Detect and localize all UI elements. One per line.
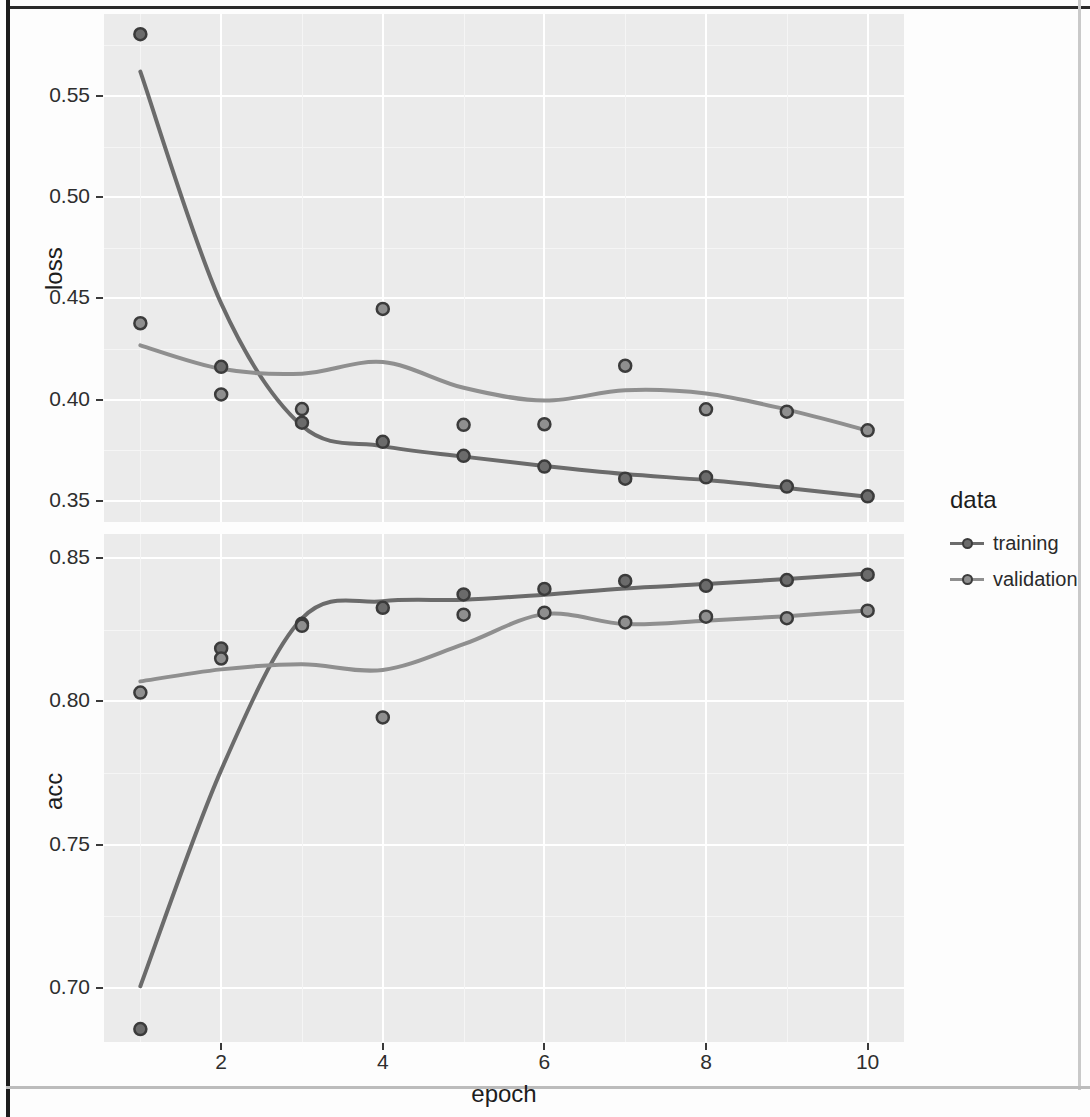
legend-title: data — [950, 486, 1085, 514]
data-point-training — [619, 473, 631, 485]
y-tick-mark — [96, 700, 103, 702]
axis-title-y-loss: loss — [40, 247, 68, 290]
faceted-plot: 0.550.500.450.400.350.850.800.750.702468… — [0, 0, 1090, 1117]
x-tick-text: 6 — [539, 1050, 551, 1073]
y-tick-mark — [96, 297, 103, 299]
x-tick-text: 2 — [215, 1050, 227, 1073]
x-tick-label: 4 — [353, 1050, 413, 1074]
y-tick-label-loss: 0.50 — [22, 184, 90, 210]
data-point-training — [700, 471, 712, 483]
data-point-training — [619, 575, 631, 587]
x-tick-mark — [543, 1043, 545, 1050]
data-point-validation — [700, 611, 712, 623]
legend-key-training-icon — [950, 526, 984, 560]
y-tick-mark — [96, 844, 103, 846]
legend: data training validation — [950, 486, 1085, 598]
y-tick-text: 0.70 — [28, 975, 90, 999]
data-point-training — [862, 569, 874, 581]
y-tick-label-acc: 0.75 — [22, 832, 90, 858]
panel-loss — [104, 14, 904, 522]
data-point-validation — [538, 418, 550, 430]
data-point-validation — [700, 403, 712, 415]
data-point-validation — [781, 612, 793, 624]
y-tick-text: 0.75 — [28, 832, 90, 856]
y-tick-text: 0.85 — [28, 545, 90, 569]
data-point-validation — [862, 605, 874, 617]
data-point-validation — [781, 406, 793, 418]
data-point-validation — [296, 403, 308, 415]
y-tick-label-acc: 0.80 — [22, 688, 90, 714]
data-point-validation — [215, 653, 227, 665]
x-tick-label: 6 — [514, 1050, 574, 1074]
data-point-validation — [538, 607, 550, 619]
data-point-training — [134, 28, 146, 40]
axis-title-x: epoch — [104, 1080, 904, 1108]
y-tick-mark — [96, 500, 103, 502]
series-layer-acc — [104, 534, 904, 1042]
y-tick-label-loss: 0.35 — [22, 488, 90, 514]
y-tick-mark — [96, 399, 103, 401]
y-tick-text: 0.35 — [28, 488, 90, 512]
y-tick-text: 0.50 — [28, 184, 90, 208]
x-tick-text: 8 — [700, 1050, 712, 1073]
data-point-training — [458, 588, 470, 600]
y-tick-text: 0.40 — [28, 387, 90, 411]
data-point-training — [862, 490, 874, 502]
y-tick-label-loss: 0.55 — [22, 83, 90, 109]
x-tick-label: 2 — [191, 1050, 251, 1074]
x-tick-text: 4 — [377, 1050, 389, 1073]
data-point-training — [538, 583, 550, 595]
x-tick-label: 8 — [676, 1050, 736, 1074]
smooth-line-training — [140, 574, 867, 987]
data-point-training — [377, 436, 389, 448]
x-tick-text: 10 — [856, 1050, 879, 1073]
data-point-validation — [619, 616, 631, 628]
series-layer-loss — [104, 14, 904, 522]
data-point-training — [700, 580, 712, 592]
panel-acc — [104, 534, 904, 1042]
axis-title-y-acc: acc — [40, 773, 68, 810]
legend-label-training: training — [993, 532, 1059, 555]
data-point-validation — [377, 711, 389, 723]
y-tick-text: 0.55 — [28, 83, 90, 107]
data-point-training — [215, 361, 227, 373]
y-tick-label-acc: 0.85 — [22, 545, 90, 571]
data-point-validation — [458, 419, 470, 431]
data-point-validation — [215, 388, 227, 400]
x-tick-label: 10 — [838, 1050, 898, 1074]
data-point-training — [781, 481, 793, 493]
x-tick-mark — [705, 1043, 707, 1050]
data-point-validation — [296, 620, 308, 632]
data-point-validation — [134, 687, 146, 699]
y-tick-mark — [96, 196, 103, 198]
legend-item-validation[interactable]: validation — [950, 562, 1085, 596]
data-point-validation — [619, 360, 631, 372]
data-point-validation — [134, 317, 146, 329]
x-tick-mark — [382, 1043, 384, 1050]
data-point-training — [538, 461, 550, 473]
legend-item-training[interactable]: training — [950, 526, 1085, 560]
y-tick-mark — [96, 95, 103, 97]
data-point-validation — [458, 609, 470, 621]
data-point-training — [296, 417, 308, 429]
smooth-line-training — [140, 72, 867, 497]
smooth-line-validation — [140, 610, 867, 681]
data-point-training — [781, 574, 793, 586]
data-point-training — [458, 450, 470, 462]
data-point-validation — [862, 424, 874, 436]
y-tick-label-loss: 0.40 — [22, 387, 90, 413]
data-point-validation — [377, 303, 389, 315]
x-tick-mark — [867, 1043, 869, 1050]
y-tick-mark — [96, 987, 103, 989]
legend-label-validation: validation — [993, 568, 1078, 591]
legend-key-validation-icon — [950, 562, 984, 596]
y-tick-label-acc: 0.70 — [22, 975, 90, 1001]
y-tick-text: 0.80 — [28, 688, 90, 712]
y-tick-mark — [96, 557, 103, 559]
chart-screenshot: 0.550.500.450.400.350.850.800.750.702468… — [0, 0, 1090, 1117]
data-point-training — [134, 1023, 146, 1035]
x-tick-mark — [220, 1043, 222, 1050]
data-point-training — [377, 602, 389, 614]
